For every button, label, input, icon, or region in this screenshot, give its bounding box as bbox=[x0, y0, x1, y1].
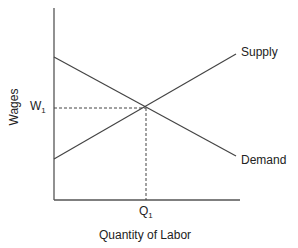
w1-tick-label: W1 bbox=[30, 99, 46, 115]
demand-label: Demand bbox=[241, 153, 286, 167]
q1-main: Q bbox=[139, 204, 148, 218]
x-axis-title: Quantity of Labor bbox=[99, 228, 191, 242]
w1-sub: 1 bbox=[41, 106, 45, 115]
q1-sub: 1 bbox=[148, 211, 152, 220]
supply-label: Supply bbox=[241, 45, 278, 59]
y-axis-title: Wages bbox=[7, 85, 21, 129]
w1-main: W bbox=[30, 99, 41, 113]
supply-line bbox=[54, 54, 236, 159]
q1-tick-label: Q1 bbox=[139, 204, 153, 220]
